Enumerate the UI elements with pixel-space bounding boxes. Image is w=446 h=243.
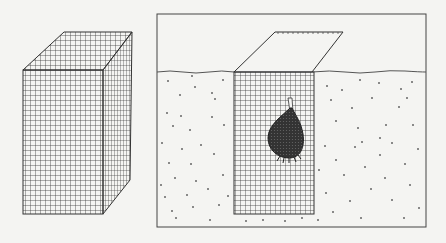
cage-front-face [23, 70, 103, 214]
mesh-cage [23, 32, 132, 214]
illustration [0, 0, 446, 243]
planting-scene [157, 14, 426, 227]
mesh-lid [234, 32, 343, 72]
